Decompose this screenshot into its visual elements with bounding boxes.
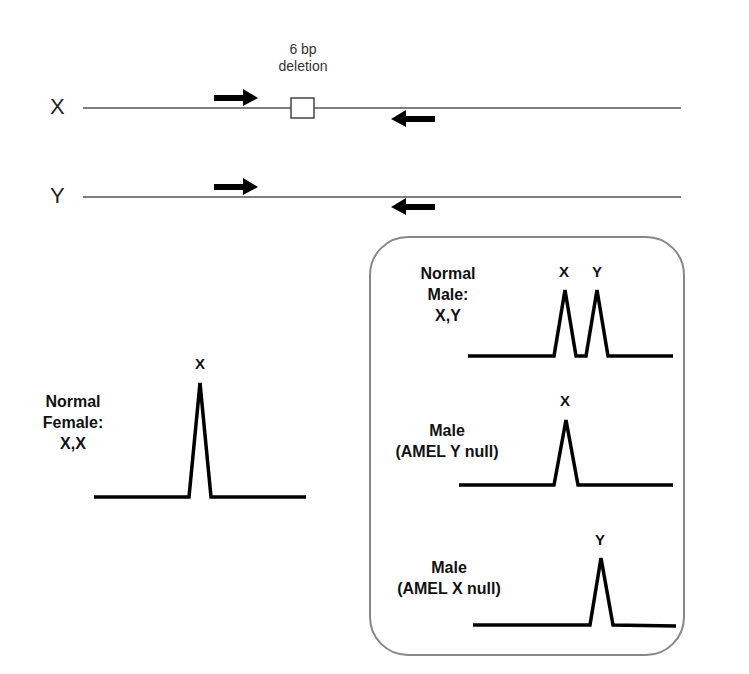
y-null-line1: Male	[383, 420, 511, 441]
deletion-label: 6 bp deletion	[263, 41, 343, 75]
female-line1: Normal	[28, 391, 118, 412]
normal-male-peak-x-label: X	[559, 263, 569, 280]
y-null-peak-x-label: X	[560, 392, 570, 409]
female-trace	[94, 383, 306, 497]
normal-male-genotype-label: Normal Male: X,Y	[408, 263, 488, 326]
x-null-genotype-label: Male (AMEL X null)	[385, 557, 513, 599]
y-null-line2: (AMEL Y null)	[383, 441, 511, 462]
reverse-primer-arrow-icon	[391, 198, 435, 215]
female-genotype-label: Normal Female: X,X	[28, 391, 118, 454]
diagram-canvas	[0, 0, 749, 674]
x-chromosome-label: X	[50, 94, 65, 120]
y-null-genotype-label: Male (AMEL Y null)	[383, 420, 511, 462]
female-line2: Female:	[28, 412, 118, 433]
y-chromosome-label: Y	[50, 183, 65, 209]
normal-male-trace	[468, 290, 673, 356]
x-null-peak-y-label: Y	[595, 531, 605, 548]
normal-male-line3: X,Y	[408, 305, 488, 326]
deletion-size: 6 bp	[263, 41, 343, 58]
female-line3: X,X	[28, 433, 118, 454]
normal-male-line1: Normal	[408, 263, 488, 284]
forward-primer-arrow-icon	[214, 89, 258, 106]
x-null-line1: Male	[385, 557, 513, 578]
normal-male-line2: Male:	[408, 284, 488, 305]
deletion-text: deletion	[263, 58, 343, 75]
reverse-primer-arrow-icon	[391, 110, 435, 127]
female-peak-x-label: X	[195, 355, 205, 372]
forward-primer-arrow-icon	[214, 178, 258, 195]
deletion-box	[291, 98, 314, 118]
x-null-line2: (AMEL X null)	[385, 578, 513, 599]
normal-male-peak-y-label: Y	[592, 263, 602, 280]
